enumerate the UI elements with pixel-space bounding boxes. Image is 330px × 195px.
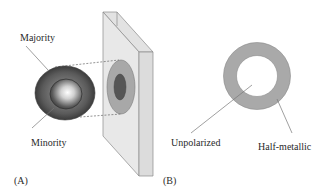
unpolarized-leader-line (191, 85, 252, 133)
slab-projection (107, 60, 135, 114)
half-metallic-leader-line (277, 99, 292, 133)
panel-a-label: (A) (14, 175, 28, 187)
figure: Majority Minority (A) Unpolarized Half-m… (0, 0, 330, 195)
majority-leader-line (26, 46, 48, 70)
majority-label: Majority (20, 32, 55, 44)
majority-minority-sphere (35, 66, 95, 120)
half-metallic-label: Half-metallic (258, 141, 311, 153)
figure-graphic (0, 0, 330, 195)
panel-b-label: (B) (163, 175, 176, 187)
minority-label: Minority (31, 137, 67, 149)
unpolarized-label: Unpolarized (171, 137, 220, 149)
